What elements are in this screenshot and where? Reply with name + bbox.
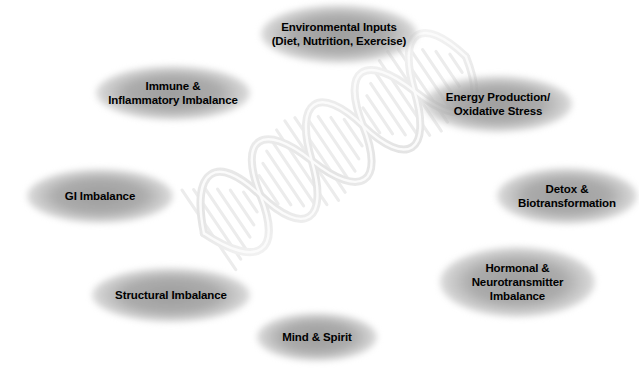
node-label: GI Imbalance (61, 189, 139, 203)
node-structural-imbalance[interactable]: Structural Imbalance (92, 268, 250, 322)
node-label: Immune & Inflammatory Imbalance (104, 79, 241, 107)
node-environmental-inputs[interactable]: Environmental Inputs (Diet, Nutrition, E… (261, 5, 417, 63)
node-label: Environmental Inputs (Diet, Nutrition, E… (268, 20, 411, 48)
node-label: Detox & Biotransformation (514, 182, 620, 210)
node-immune-inflammatory-imbalance[interactable]: Immune & Inflammatory Imbalance (96, 66, 250, 120)
diagram-canvas: Environmental Inputs (Diet, Nutrition, E… (0, 0, 639, 376)
node-hormonal-neurotransmitter-imbalance[interactable]: Hormonal & Neurotransmitter Imbalance (440, 247, 595, 317)
node-gi-imbalance[interactable]: GI Imbalance (27, 169, 173, 223)
node-label: Structural Imbalance (111, 288, 231, 302)
node-label: Mind & Spirit (278, 330, 356, 344)
node-label: Hormonal & Neurotransmitter Imbalance (468, 261, 568, 303)
node-mind-spirit[interactable]: Mind & Spirit (257, 313, 377, 361)
node-label: Energy Production/ Oxidative Stress (442, 90, 554, 118)
node-detox-biotransformation[interactable]: Detox & Biotransformation (497, 168, 637, 224)
node-energy-production-oxidative-stress[interactable]: Energy Production/ Oxidative Stress (424, 76, 572, 132)
